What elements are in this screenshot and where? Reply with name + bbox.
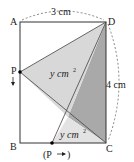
height-label: 4 cm [106,79,126,90]
area-label-bottom: y cm [59,129,79,140]
vertex-d-label: D [108,16,115,27]
arrow-down-icon [11,77,15,86]
point-p-bottom-label: (P [43,149,52,161]
rectangle-diagram: A D B C P 3 cm 4 cm y cm 2 y cm 2 (P ) [0,0,134,162]
area-label-top-exp: 2 [73,67,76,73]
point-p-bottom [50,141,54,145]
vertex-b-label: B [10,141,17,152]
vertex-c-label: C [106,143,113,154]
vertex-a-label: A [10,16,18,27]
arrow-right-icon [57,152,66,156]
area-label-bottom-exp: 2 [83,128,86,134]
point-p-bottom-close: ) [67,149,70,161]
area-label-top: y cm [49,68,69,79]
point-p-label: P [11,65,17,76]
width-label: 3 cm [51,6,71,17]
point-p-left [18,70,22,74]
